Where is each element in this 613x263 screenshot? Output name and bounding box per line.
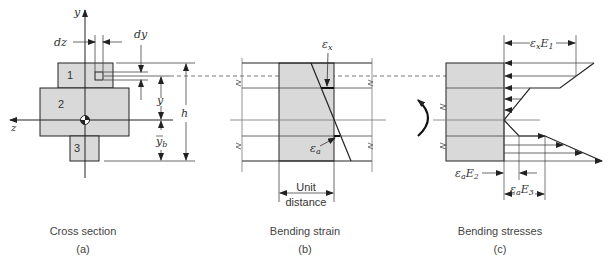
section-face (446, 63, 504, 161)
unit-length-element (279, 63, 334, 161)
panel-c-bending-stresses: εxE1 εaE2 εaE3 (418, 35, 602, 200)
y-axis-label: y (73, 6, 81, 19)
distance-label: distance (286, 196, 327, 208)
break-mark-icon (236, 80, 241, 86)
caption-b: Bending strain (225, 225, 385, 237)
break-mark-icon (236, 143, 241, 149)
panel-b-bending-strain: εx εa Unit distance (230, 38, 386, 208)
figure-canvas: y z 1 2 3 dz dy y yb h εx εa (0, 0, 613, 263)
sublabel-b: (b) (225, 243, 385, 255)
centroid-icon (81, 116, 90, 125)
panel-a-cross-section: y z 1 2 3 dz dy y yb h (10, 6, 195, 178)
dz-label: dz (54, 36, 67, 49)
break-mark-icon (440, 143, 446, 149)
y-dimension-label: y (156, 94, 164, 107)
compression-stress-profile (504, 63, 594, 120)
yb-label: yb (155, 135, 167, 149)
region-1-label: 1 (67, 69, 73, 81)
bending-moment-icon (418, 100, 428, 136)
sublabel-a: (a) (3, 243, 163, 255)
stress-eaE3-label: εaE3 (510, 183, 534, 197)
stress-exE1-label: εxE1 (530, 37, 554, 51)
region-2-label: 2 (58, 98, 64, 110)
strain-ex-label: εx (322, 38, 333, 52)
sublabel-c: (c) (420, 243, 580, 255)
h-label: h (181, 107, 188, 120)
stress-eaE2-label: εaE2 (455, 167, 479, 181)
caption-c: Bending stresses (420, 225, 580, 237)
z-axis-label: z (10, 122, 17, 133)
unit-label: Unit (296, 181, 316, 193)
break-mark-icon (440, 104, 446, 110)
region-3-label: 3 (74, 142, 80, 154)
composite-beam-figure: y z 1 2 3 dz dy y yb h εx εa (0, 0, 613, 263)
dy-label: dy (134, 28, 148, 41)
caption-a: Cross section (3, 225, 163, 237)
